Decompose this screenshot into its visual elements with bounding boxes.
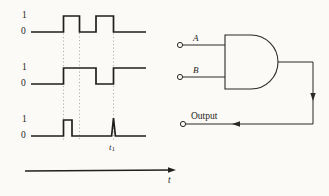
time-axis [25,167,176,173]
waveform-input-a-low-label: 0 [21,27,26,37]
waveform-output-glitch-high-label: 1 [22,115,27,125]
and-gate-body [225,35,278,89]
waveform-output-glitch [31,118,146,136]
output-terminal-dot [180,121,185,126]
time-axis-arrowhead [168,167,176,173]
figure-canvas [0,0,329,196]
waveform-input-b-high-label: 1 [22,63,27,73]
input-b-label: B [193,66,199,75]
waveform-input-a [31,16,146,32]
output-wire-left-arrowhead [232,121,240,126]
waveform-input-b [31,68,146,84]
waveform-input-a-high-label: 1 [22,11,27,21]
time-axis-label: t [168,176,171,186]
output-wire-down-arrowhead [310,93,315,101]
figure-page: 1 0 1 0 1 0 t1 t A B Output [0,0,329,196]
input-a-terminal-dot [177,42,182,47]
input-b-terminal-dot [177,74,182,79]
waveform-output-glitch-low-label: 0 [21,131,26,141]
timing-diagram [25,16,176,173]
input-a-label: A [193,34,199,43]
t1-marker-label: t1 [109,143,115,153]
t1-marker-subscript: 1 [112,145,115,152]
output-label: Output [191,112,217,122]
time-axis-line [25,170,172,171]
waveform-input-b-low-label: 0 [21,79,26,89]
guide-lines [64,16,114,140]
